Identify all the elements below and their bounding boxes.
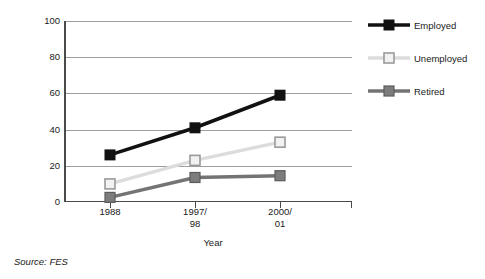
legend-item-employed[interactable]: Employed xyxy=(368,18,483,32)
source-note: Source: FES xyxy=(14,256,68,267)
marker-employed-1988 xyxy=(105,149,116,160)
x-tick-label-1988: 1988 xyxy=(75,206,145,218)
legend-label-unemployed: Unemployed xyxy=(414,52,467,65)
legend-item-unemployed[interactable]: Unemployed xyxy=(368,51,483,65)
plot-area xyxy=(64,21,352,202)
marker-retired-1997-98 xyxy=(190,173,200,183)
marker-retired-2000-01 xyxy=(275,171,285,181)
legend-item-retired[interactable]: Retired xyxy=(368,84,483,98)
y-tick-label-80: 80 xyxy=(34,52,60,62)
y-tick-label-0: 0 xyxy=(34,197,60,207)
marker-retired-1988 xyxy=(105,192,115,202)
y-axis-tick-labels: 100 80 60 40 20 0 xyxy=(30,21,60,202)
y-tick-label-60: 60 xyxy=(34,88,60,98)
y-tick-label-40: 40 xyxy=(34,125,60,135)
x-tick-label-2000-01: 2000/ 01 xyxy=(245,206,315,229)
y-tick-label-20: 20 xyxy=(34,161,60,171)
x-axis-tick-labels: 1988 1997/ 98 2000/ 01 xyxy=(64,206,364,240)
marker-unemployed-2000-01 xyxy=(275,137,285,147)
y-tick-label-100: 100 xyxy=(34,16,60,26)
marker-unemployed-1988 xyxy=(105,179,115,189)
x-axis-title: Year xyxy=(178,237,248,248)
legend-label-employed: Employed xyxy=(414,19,456,32)
series-layer xyxy=(64,21,352,202)
legend-swatch-employed xyxy=(368,18,410,32)
chart-legend: Employed Unemployed Retired xyxy=(368,18,483,98)
chart-figure: Household ownership (%) 100 80 60 40 20 … xyxy=(0,0,485,279)
legend-swatch-retired xyxy=(368,84,410,98)
marker-unemployed-1997-98 xyxy=(190,155,200,165)
marker-employed-2000-01 xyxy=(275,90,286,101)
legend-label-retired: Retired xyxy=(414,85,445,98)
x-tick-label-1997-98: 1997/ 98 xyxy=(160,206,230,229)
legend-swatch-unemployed xyxy=(368,51,410,65)
marker-employed-1997-98 xyxy=(190,122,201,133)
